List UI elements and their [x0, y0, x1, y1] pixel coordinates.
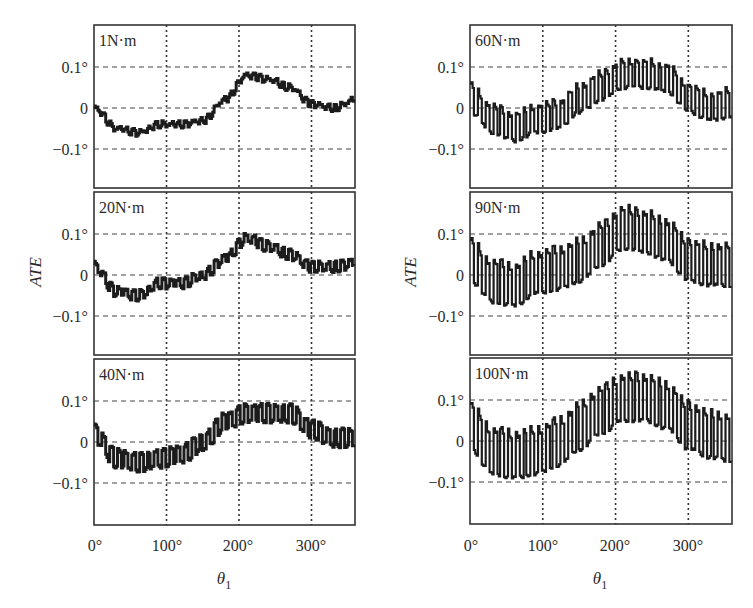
- y-tick-label: 0: [80, 434, 88, 451]
- y-tick-label: −0.1°: [53, 141, 88, 158]
- x-axis-label-left-sub: 1: [225, 578, 231, 592]
- x-tick-labels-right: 0° 100° 200° 300°: [464, 537, 703, 554]
- x-axis-label-right: θ1: [593, 569, 607, 592]
- x-tick-labels-left: 0° 100° 200° 300°: [88, 537, 326, 554]
- panel-60nm: 60N·m0.1°0−0.1°: [429, 25, 732, 188]
- y-tick-label: −0.1°: [429, 474, 464, 491]
- y-tick-label: 0: [80, 267, 88, 284]
- panel-1nm: 1N·m0.1°0−0.1°: [53, 25, 355, 188]
- panel-40nm: 40N·m0.1°0−0.1°: [53, 359, 355, 525]
- x-axis-label-left: θ1: [217, 569, 231, 592]
- y-tick-label: 0: [80, 100, 88, 117]
- panel-20nm: 20N·m0.1°0−0.1°: [53, 192, 355, 355]
- panel-torque-label: 90N·m: [475, 199, 521, 216]
- y-tick-label: −0.1°: [429, 141, 464, 158]
- y-tick-label: 0: [456, 100, 464, 117]
- y-tick-label: 0.1°: [62, 59, 88, 76]
- panels-layer: 1N·m0.1°0−0.1°20N·m0.1°0−0.1°40N·m0.1°0−…: [53, 25, 732, 525]
- x-tick-100-right: 100°: [528, 537, 558, 554]
- panel-torque-label: 1N·m: [99, 32, 137, 49]
- y-axis-label-right: ATE: [401, 257, 420, 288]
- x-tick-300-right: 300°: [673, 537, 703, 554]
- y-tick-label: 0.1°: [438, 392, 464, 409]
- x-tick-200-right: 200°: [600, 537, 630, 554]
- panel-torque-label: 60N·m: [475, 32, 521, 49]
- panel-100nm: 100N·m0.1°0−0.1°: [429, 358, 732, 524]
- x-tick-200-left: 200°: [223, 537, 253, 554]
- panel-90nm: 90N·m0.1°0−0.1°: [429, 192, 732, 355]
- panel-torque-label: 40N·m: [99, 366, 145, 383]
- y-tick-label: −0.1°: [53, 308, 88, 325]
- ate-torque-figure: 1N·m0.1°0−0.1°20N·m0.1°0−0.1°40N·m0.1°0−…: [0, 0, 753, 608]
- y-tick-label: 0.1°: [62, 226, 88, 243]
- y-axis-label-left: ATE: [26, 257, 45, 288]
- y-tick-label: 0.1°: [438, 226, 464, 243]
- panel-torque-label: 100N·m: [475, 365, 529, 382]
- y-tick-label: −0.1°: [53, 475, 88, 492]
- y-tick-label: 0: [456, 267, 464, 284]
- panel-torque-label: 20N·m: [99, 199, 145, 216]
- x-tick-100-left: 100°: [152, 537, 182, 554]
- x-axis-label-right-main: θ: [593, 569, 601, 588]
- y-tick-label: 0: [456, 433, 464, 450]
- x-axis-label-right-sub: 1: [601, 578, 607, 592]
- y-tick-label: −0.1°: [429, 308, 464, 325]
- x-tick-0-right: 0°: [464, 537, 478, 554]
- y-tick-label: 0.1°: [438, 59, 464, 76]
- x-axis-label-left-main: θ: [217, 569, 225, 588]
- y-tick-label: 0.1°: [62, 393, 88, 410]
- x-tick-0-left: 0°: [88, 537, 102, 554]
- x-tick-300-left: 300°: [296, 537, 326, 554]
